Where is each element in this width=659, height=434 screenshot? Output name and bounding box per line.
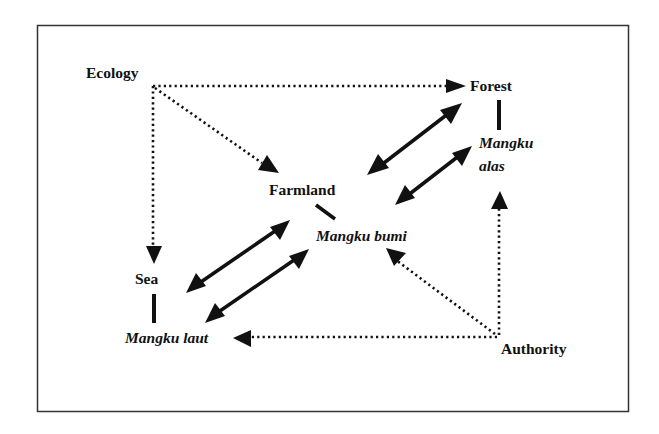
arrowhead-icon [186,273,206,293]
edge-sea-farmland [198,229,278,284]
arrowhead-icon [367,154,389,175]
diagram-canvas: Ecology Forest Mangku alas Farmland Mang… [0,0,659,434]
arrowhead-icon [146,246,162,264]
arrowhead-icon [258,155,279,173]
arrowhead-icon [452,146,472,166]
arrowhead-icon [446,79,466,93]
node-farmland: Farmland [269,181,336,198]
arrowhead-icon [233,330,251,347]
node-forest: Forest [470,77,513,94]
arrowhead-icon [289,249,309,269]
arrowhead-icon [395,185,415,205]
node-authority: Authority [501,340,567,357]
arrowhead-icon [270,220,290,240]
edge-farmland-forest [380,113,449,166]
edge-ecology-farmland [155,88,262,163]
edge-mangku-laut-mangku-bumi [217,258,297,313]
arrowhead-icon [491,191,508,209]
node-mangku-alas-line1: Mangku [478,134,534,151]
node-mangku-laut: Mangku laut [124,329,209,346]
node-mangku-alas-line2: alas [479,157,505,174]
diagram-svg: Ecology Forest Mangku alas Farmland Mang… [0,0,659,434]
arrowhead-icon [386,248,406,266]
node-sea: Sea [135,270,159,287]
edge-authority-mangku-bumi [396,260,495,334]
arrowhead-icon [440,103,462,124]
arrowhead-icon [205,303,225,323]
edge-mangku-bumi-mangku-alas [407,155,460,196]
link-farmland-mangku-bumi [316,205,335,219]
node-mangku-bumi: Mangku bumi [315,227,408,244]
ecology-edges [153,86,448,248]
node-ecology: Ecology [86,64,139,81]
